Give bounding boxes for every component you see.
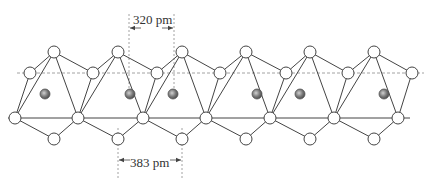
bond xyxy=(182,52,220,73)
bond xyxy=(15,118,54,139)
metal-atom xyxy=(168,89,178,99)
ligand-atom-node xyxy=(87,67,99,79)
bond xyxy=(143,73,157,118)
ligand-atom-node xyxy=(342,67,354,79)
ligand-atom-node xyxy=(406,67,418,79)
bond xyxy=(334,52,374,118)
bond xyxy=(206,118,246,139)
ligand-atom-node xyxy=(151,67,163,79)
ligand-atom-node xyxy=(214,67,226,79)
ligand-atom-node xyxy=(48,46,60,58)
ligand-atom-node xyxy=(9,112,21,124)
ligand-atom-node xyxy=(328,112,340,124)
ligand-atom-node xyxy=(240,133,252,145)
bond xyxy=(78,118,118,139)
ligand-atom-node xyxy=(304,133,316,145)
bond xyxy=(334,73,348,118)
ligand-atom-node xyxy=(72,112,84,124)
bond xyxy=(310,52,334,118)
bond xyxy=(398,73,412,118)
bond xyxy=(270,118,310,139)
bond xyxy=(78,52,118,118)
ligand-atom-node xyxy=(200,112,212,124)
ligand-atom-node xyxy=(392,112,404,124)
ligand-atom-node xyxy=(304,46,316,58)
top-distance-label: 320 pm xyxy=(133,13,172,26)
metal-atom xyxy=(295,89,305,99)
ligand-atom-node xyxy=(176,46,188,58)
bond xyxy=(143,52,182,118)
metal-atom xyxy=(125,89,135,99)
ligand-atom-node xyxy=(24,67,36,79)
ligand-atom-node xyxy=(368,46,380,58)
bond xyxy=(334,118,374,139)
bond xyxy=(143,118,182,139)
ligand-atom-node xyxy=(240,46,252,58)
bond xyxy=(182,52,206,118)
metal-atom xyxy=(252,89,262,99)
bond xyxy=(78,73,93,118)
metal-atom xyxy=(40,89,50,99)
ligand-atom-node xyxy=(176,133,188,145)
bond xyxy=(246,52,270,118)
bottom-distance-label: 383 pm xyxy=(130,156,169,169)
chain-structure-diagram xyxy=(0,0,430,178)
bond xyxy=(54,52,93,73)
ligand-atom-node xyxy=(137,112,149,124)
bond xyxy=(54,52,78,118)
bond xyxy=(15,52,54,118)
bond xyxy=(118,52,157,73)
bond xyxy=(310,52,348,73)
bond xyxy=(270,52,310,118)
bond xyxy=(374,52,412,73)
bond xyxy=(118,52,143,118)
bond xyxy=(206,52,246,118)
ligand-atom-node xyxy=(280,67,292,79)
bond xyxy=(206,73,220,118)
ligand-atom-node xyxy=(48,133,60,145)
ligand-atom-node xyxy=(368,133,380,145)
arrow-left-icon xyxy=(119,158,124,162)
ligand-atom-node xyxy=(264,112,276,124)
ligand-atom-node xyxy=(112,46,124,58)
arrow-right-icon xyxy=(176,158,181,162)
metal-atom xyxy=(379,89,389,99)
ligand-atom-node xyxy=(112,133,124,145)
bond xyxy=(374,52,398,118)
